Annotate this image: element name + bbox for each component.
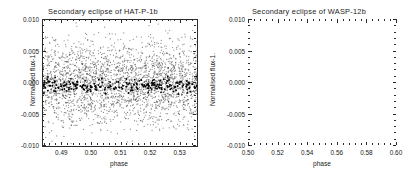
x-tick-label: 0.52 bbox=[271, 149, 283, 156]
x-tick-label: 0.50 bbox=[85, 149, 97, 156]
x-tick-label: 0.52 bbox=[144, 149, 156, 156]
y-tick-label: -0.010 bbox=[4, 142, 39, 149]
x-axis-title-left: phase bbox=[110, 160, 128, 167]
x-tick-label: 0.56 bbox=[331, 149, 343, 156]
x-tick-label: 0.60 bbox=[390, 149, 402, 156]
x-tick-label: 0.50 bbox=[242, 149, 254, 156]
y-tick-label: -0.010 bbox=[210, 142, 245, 149]
figure-canvas: Secondary eclipse of HAT-P-1b 0.0100.005… bbox=[0, 0, 412, 180]
plot-area-left bbox=[42, 19, 198, 147]
x-tick-label: 0.54 bbox=[301, 149, 313, 156]
x-tick-label: 0.53 bbox=[173, 149, 185, 156]
x-tick-label: 0.51 bbox=[114, 149, 126, 156]
x-tick-label: 0.49 bbox=[55, 149, 67, 156]
x-tick-label: 0.58 bbox=[360, 149, 372, 156]
panel-wasp-12b: Secondary eclipse of WASP-12b 0.0100.005… bbox=[206, 0, 412, 180]
panel-hat-p-1b: Secondary eclipse of HAT-P-1b 0.0100.005… bbox=[0, 0, 206, 180]
scatter-plot-left bbox=[43, 20, 197, 146]
x-axis-title-right: phase bbox=[313, 160, 331, 167]
y-axis-title-right: Normalised flux-1. bbox=[209, 17, 216, 143]
y-axis-title-left: Normalised flux-1. bbox=[29, 17, 36, 143]
